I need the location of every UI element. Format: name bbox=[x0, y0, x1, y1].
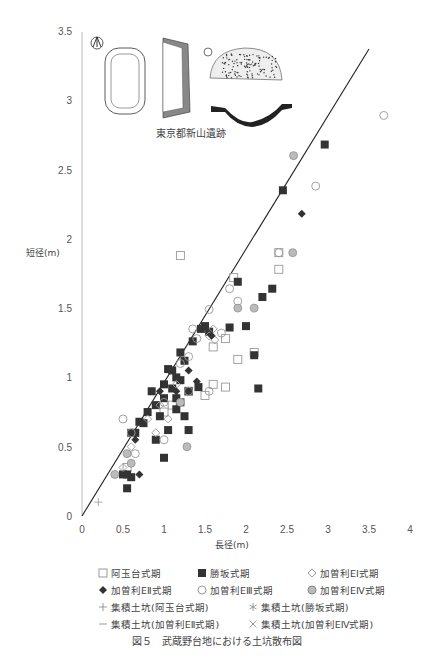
legend-item: 加曽利EⅣ式期 bbox=[307, 583, 385, 597]
y-tick-labels: 00.511.522.533.5 bbox=[58, 26, 72, 522]
inset-figure: 東京都新山遺跡 bbox=[91, 37, 292, 139]
x-tick-labels: 00.511.522.533.54 bbox=[79, 524, 413, 535]
data-points bbox=[94, 111, 387, 506]
regression-line bbox=[82, 49, 369, 516]
open-circle-icon bbox=[197, 585, 207, 595]
plus-icon bbox=[98, 602, 108, 612]
y-axis-title: 短径(m) bbox=[26, 247, 60, 258]
asterisk-icon bbox=[248, 602, 258, 612]
legend-label: 加曽利EⅠ式期 bbox=[320, 566, 379, 580]
legend: 阿玉台式期 勝坂式期 加曽利EⅠ式期 加曽利EⅡ式期 加曽利EⅢ式期 加曽利EⅣ… bbox=[0, 566, 443, 634]
filled-diamond-icon bbox=[98, 585, 108, 595]
svg-text:0.5: 0.5 bbox=[58, 442, 72, 453]
legend-label: 加曽利EⅢ式期 bbox=[210, 583, 273, 597]
legend-item: 集積土坑(阿玉台式期) bbox=[98, 600, 208, 614]
legend-label: 集積土坑(加曽利EⅣ式期) bbox=[261, 617, 373, 631]
legend-item: 加曽利EⅢ式期 bbox=[197, 583, 273, 597]
legend-label: 加曽利EⅣ式期 bbox=[320, 583, 385, 597]
svg-text:1.5: 1.5 bbox=[198, 524, 212, 535]
legend-item: 集積土坑(加曽利EⅣ式期) bbox=[248, 617, 373, 631]
figure-title: 武蔵野台地における土坑散布図 bbox=[162, 636, 302, 647]
svg-text:2: 2 bbox=[66, 234, 72, 245]
north-arrow-icon-2 bbox=[204, 48, 212, 56]
north-arrow-icon bbox=[91, 37, 103, 49]
svg-text:1: 1 bbox=[161, 524, 167, 535]
figure-number: 図５ bbox=[132, 636, 152, 647]
legend-item: 加曽利EⅡ式期 bbox=[98, 583, 172, 597]
svg-text:0: 0 bbox=[66, 511, 72, 522]
svg-text:3.5: 3.5 bbox=[362, 524, 376, 535]
open-square-icon bbox=[98, 568, 108, 578]
x-axis-title: 長径(m) bbox=[215, 539, 249, 550]
legend-label: 阿玉台式期 bbox=[111, 566, 161, 580]
filled-square-icon bbox=[197, 568, 207, 578]
cross-icon bbox=[248, 619, 258, 629]
figure-caption: 図５武蔵野台地における土坑散布図 bbox=[0, 633, 443, 648]
legend-item: 集積土坑(加曽利EⅡ式期) bbox=[98, 617, 219, 631]
legend-item: 集積土坑(勝坂式期) bbox=[248, 600, 348, 614]
svg-text:3: 3 bbox=[66, 95, 72, 106]
svg-text:3.5: 3.5 bbox=[58, 26, 72, 37]
legend-item: 加曽利EⅠ式期 bbox=[307, 566, 379, 580]
inset-caption: 東京都新山遺跡 bbox=[156, 127, 226, 139]
dash-icon bbox=[98, 619, 108, 629]
legend-label: 加曽利EⅡ式期 bbox=[111, 583, 172, 597]
svg-text:4: 4 bbox=[407, 524, 413, 535]
svg-text:2: 2 bbox=[243, 524, 249, 535]
legend-item: 勝坂式期 bbox=[197, 566, 250, 580]
svg-text:0.5: 0.5 bbox=[116, 524, 130, 535]
svg-text:2.5: 2.5 bbox=[280, 524, 294, 535]
legend-label: 集積土坑(阿玉台式期) bbox=[111, 600, 208, 614]
svg-text:1: 1 bbox=[66, 372, 72, 383]
legend-label: 集積土坑(勝坂式期) bbox=[261, 600, 348, 614]
scatter-chart: 00.511.522.533.5 00.511.522.533.54 短径(m)… bbox=[0, 0, 443, 664]
svg-text:0: 0 bbox=[79, 524, 85, 535]
svg-text:2.5: 2.5 bbox=[58, 165, 72, 176]
legend-item: 阿玉台式期 bbox=[98, 566, 161, 580]
svg-text:1.5: 1.5 bbox=[58, 303, 72, 314]
cluster-section-drawing bbox=[211, 104, 292, 127]
legend-label: 勝坂式期 bbox=[210, 566, 250, 580]
grey-circle-icon bbox=[307, 585, 317, 595]
open-diamond-icon bbox=[307, 568, 317, 578]
svg-text:3: 3 bbox=[325, 524, 331, 535]
legend-label: 集積土坑(加曽利EⅡ式期) bbox=[111, 617, 219, 631]
